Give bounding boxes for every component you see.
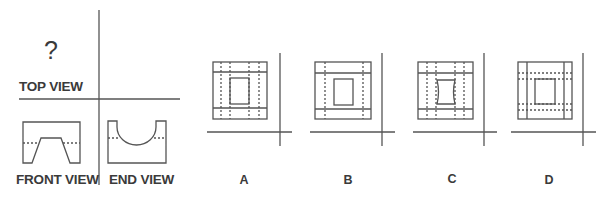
end-view-drawing [108,121,166,163]
option-c-drawing[interactable] [413,53,497,146]
front-view-label: FRONT VIEW [16,172,99,187]
end-view-label: END VIEW [109,172,174,187]
option-b-label[interactable]: B [343,173,352,187]
front-view-drawing [23,122,80,163]
option-d-drawing[interactable] [511,53,596,146]
diagram-canvas [0,0,615,200]
option-c-label[interactable]: C [447,172,456,186]
option-a-drawing[interactable] [207,53,292,146]
unknown-top-view-mark: ? [44,36,58,65]
option-b-drawing[interactable] [310,53,395,146]
top-view-label: TOP VIEW [19,79,83,94]
option-a-label[interactable]: A [239,173,248,187]
option-d-label[interactable]: D [544,173,553,187]
